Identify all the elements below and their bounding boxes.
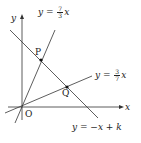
- equation-suffix: x: [64, 7, 69, 17]
- y-axis-arrow-icon: [20, 14, 24, 19]
- point-q-label: Q: [62, 89, 69, 98]
- point-p: [39, 58, 42, 61]
- equation-prefix: y =: [38, 7, 56, 17]
- denominator: 7: [115, 76, 119, 82]
- equation-line-7-3x: y = 73x: [38, 6, 69, 19]
- point-p-label: P: [35, 48, 41, 57]
- y-axis-label: y: [11, 14, 16, 23]
- denominator: 3: [58, 13, 62, 19]
- line-7-3x: [15, 30, 55, 123]
- line-3-7x: [5, 76, 92, 113]
- equation-prefix: y =: [95, 70, 113, 80]
- equation-suffix: x: [121, 70, 126, 80]
- fraction: 37: [114, 69, 120, 82]
- fraction: 73: [57, 6, 63, 19]
- x-axis-arrow-icon: [119, 105, 124, 109]
- equation-line-3-7x: y = 37x: [95, 69, 126, 82]
- x-axis-label: x: [125, 103, 130, 112]
- origin-label: O: [25, 110, 32, 119]
- equation-line-neg-x-plus-k: y = −x + k: [72, 123, 122, 132]
